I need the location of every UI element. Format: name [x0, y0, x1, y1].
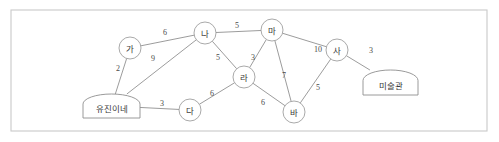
graph-canvas: 가나다라마바사유진이네미술관 26935536671053	[0, 0, 499, 142]
graph-terminal-label-home: 유진이네	[96, 104, 128, 114]
edge-weight-label: 10	[314, 45, 322, 54]
graph-node-label-sa: 사	[333, 46, 341, 56]
graph-node-label-ra: 라	[240, 73, 248, 83]
edge-weight-label: 6	[261, 98, 265, 107]
graph-figure: 가나다라마바사유진이네미술관 26935536671053	[0, 0, 499, 142]
edge-weight-label: 9	[151, 54, 155, 63]
graph-node-label-da: 다	[186, 106, 194, 116]
graph-node-label-ba: 바	[290, 108, 298, 118]
graph-node-label-ga: 가	[126, 44, 134, 54]
edge-weight-label: 3	[251, 53, 255, 62]
edge-weight-label: 7	[282, 71, 286, 80]
edge-weight-label: 3	[369, 46, 373, 55]
graph-node-label-na: 나	[201, 29, 209, 39]
graph-terminal-label-museum: 미술관	[379, 81, 403, 91]
edge-weight-label: 6	[210, 89, 214, 98]
edge-weight-label: 5	[235, 21, 239, 30]
edge-weight-label: 5	[316, 83, 320, 92]
edge-weight-label: 2	[116, 64, 120, 73]
edge-weight-label: 5	[216, 53, 220, 62]
graph-node-label-ma: 마	[268, 26, 276, 36]
edge-weight-label: 3	[160, 99, 164, 108]
edge-weight-label: 6	[163, 28, 167, 37]
